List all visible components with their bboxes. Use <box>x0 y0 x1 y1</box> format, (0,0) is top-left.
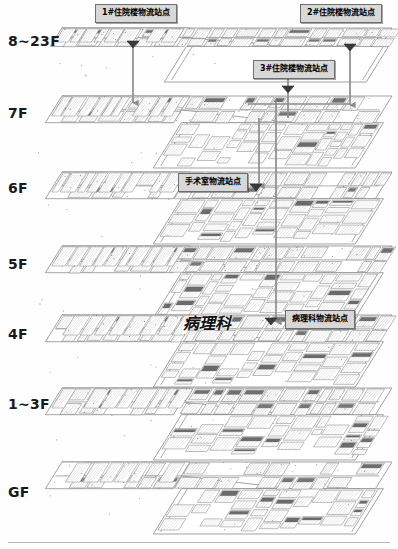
floor-plate-f8_23 <box>37 28 398 94</box>
bottom-rule <box>8 542 390 543</box>
floor-plate-f1_3 <box>26 388 398 472</box>
floor-label-f6: 6F <box>8 180 28 196</box>
floor-label-f8_23: 8~23F <box>8 33 60 49</box>
callout-c3[interactable]: 3#住院楼物流站点 <box>253 60 335 79</box>
floor-label-f1_3: 1~3F <box>8 396 50 412</box>
callout-c1[interactable]: 1#住院楼物流站点 <box>95 4 177 23</box>
floor-label-f5: 5F <box>8 256 28 272</box>
floor-label-f4: 4F <box>8 326 28 342</box>
diagram-canvas: 8~23F7F6F5F4F1~3FGF 病理科 1#住院楼物流站点2#住院楼物流… <box>0 0 398 549</box>
callout-c5[interactable]: 病理科物流站点 <box>285 310 355 329</box>
floor-label-gf: GF <box>8 484 30 500</box>
floor-plate-f7 <box>26 96 398 180</box>
department-name-d1: 病理科 <box>183 310 231 334</box>
callout-c4[interactable]: 手术室物流站点 <box>178 173 248 192</box>
callout-c2[interactable]: 2#住院楼物流站点 <box>300 4 382 23</box>
floor-plate-gf <box>26 462 398 546</box>
floor-label-f7: 7F <box>8 105 28 121</box>
